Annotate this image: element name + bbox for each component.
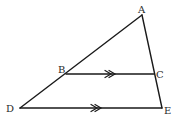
segment-ae: [142, 15, 162, 108]
label-a: A: [137, 4, 146, 15]
label-e: E: [164, 105, 171, 116]
label-b: B: [58, 64, 65, 75]
label-d: D: [6, 103, 14, 114]
segment-ad: [20, 15, 142, 108]
triangle-diagram: A B C D E: [0, 0, 175, 122]
label-c: C: [156, 69, 164, 80]
